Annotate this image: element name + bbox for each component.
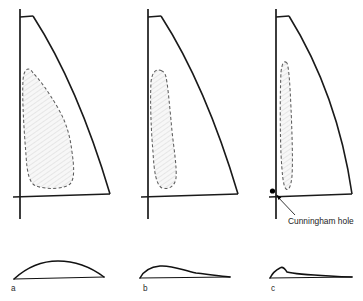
airfoil-chord-b: [140, 277, 230, 278]
boom-line-a: [13, 194, 110, 197]
airfoil-section-c: c: [270, 267, 352, 293]
sail-panel-b: [141, 9, 238, 219]
airfoil-chord-c: [270, 277, 352, 278]
airfoil-section-b: b: [140, 266, 230, 293]
section-label-c: c: [271, 284, 275, 293]
airfoil-chord-a: [14, 277, 104, 279]
airfoil-camber-b: [140, 266, 230, 278]
leech-curve-c: [289, 16, 352, 194]
airfoil-section-a: a: [11, 261, 104, 293]
draft-region-b: [151, 70, 177, 188]
boom-line-b: [141, 194, 238, 197]
head-line-c: [276, 16, 289, 17]
sail-panel-c: Cunningham hole: [269, 9, 354, 226]
cunningham-hole-label: Cunningham hole: [288, 216, 354, 226]
sail-panel-a: [13, 9, 110, 219]
section-label-a: a: [11, 284, 16, 293]
draft-region-a: [23, 69, 74, 188]
airfoil-camber-a: [14, 261, 104, 279]
sail-draft-figure: Cunningham hole a b c: [0, 0, 363, 301]
section-label-b: b: [143, 284, 148, 293]
head-line-a: [20, 16, 33, 17]
draft-region-c: [280, 62, 292, 190]
boom-line-c: [269, 194, 352, 197]
head-line-b: [148, 16, 161, 17]
cunningham-hole-grommet: [270, 188, 275, 193]
figure-canvas: Cunningham hole a b c: [0, 0, 363, 301]
airfoil-camber-c: [270, 267, 352, 278]
